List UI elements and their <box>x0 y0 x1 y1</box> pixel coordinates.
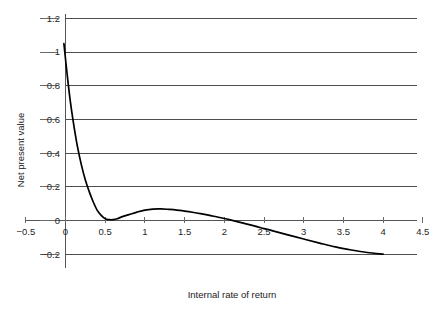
y-tick-label-2: 0 <box>55 215 60 226</box>
y-tick-label-6: 0.8 <box>47 80 60 91</box>
x-tick-label-2: 0.5 <box>99 226 112 237</box>
y-tick-label-5: 0.6 <box>47 114 60 125</box>
chart-figure: −0.500.511.522.533.544.5 −0.200.20.40.60… <box>0 0 430 310</box>
y-axis-tick-labels: −0.200.20.40.60.811.2 <box>41 13 60 260</box>
x-tick-label-1: 0 <box>63 226 68 237</box>
y-axis-ticks <box>40 18 66 268</box>
y-tick-label-4: 0.4 <box>47 148 60 159</box>
y-tick-label-1: −0.2 <box>41 249 60 260</box>
x-tick-label-4: 1.5 <box>178 226 191 237</box>
npv-curve <box>64 44 383 255</box>
y-tick-label-7: 1 <box>55 46 60 57</box>
npv-irr-line-chart: −0.500.511.522.533.544.5 −0.200.20.40.60… <box>0 0 430 310</box>
x-axis-tick-labels: −0.500.511.522.533.544.5 <box>16 226 429 237</box>
y-axis-title: Net present value <box>15 113 26 187</box>
x-tick-label-8: 3.5 <box>337 226 350 237</box>
x-tick-label-10: 4.5 <box>416 226 429 237</box>
x-tick-label-7: 3 <box>301 226 306 237</box>
x-tick-label-3: 1 <box>142 226 147 237</box>
y-tick-label-3: 0.2 <box>47 181 60 192</box>
x-tick-label-5: 2 <box>222 226 227 237</box>
y-tick-label-8: 1.2 <box>47 13 60 24</box>
x-tick-label-9: 4 <box>380 226 385 237</box>
x-axis-title: Internal rate of return <box>188 289 277 300</box>
x-tick-label-0: −0.5 <box>16 226 35 237</box>
